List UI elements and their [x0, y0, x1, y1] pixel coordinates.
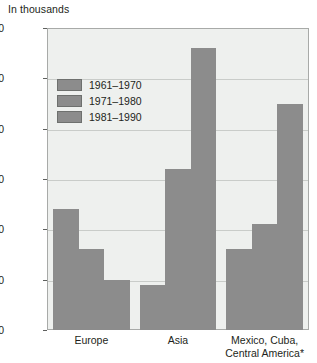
legend-item: 1961–1970	[57, 78, 142, 91]
legend-item: 1981–1990	[57, 110, 142, 123]
legend-label: 1961–1970	[89, 79, 142, 91]
legend-item: 1971–1980	[57, 94, 142, 107]
bar	[226, 249, 252, 330]
bar	[104, 280, 130, 330]
bar	[191, 48, 217, 330]
bar	[79, 249, 105, 330]
bar	[53, 209, 79, 330]
y-axis-tick-label: 1,500	[0, 173, 4, 185]
bar	[277, 104, 303, 331]
y-axis-tick-label: 500	[0, 274, 4, 286]
legend-swatch	[57, 111, 82, 123]
legend-label: 1971–1980	[89, 95, 142, 107]
bar	[140, 285, 166, 330]
bar-chart: In thousands 05001,0001,5002,0002,5003,0…	[0, 0, 317, 363]
y-axis-tick-label: 3,000	[0, 22, 4, 34]
bar	[252, 224, 278, 330]
legend-swatch	[57, 79, 82, 91]
y-axis-tick	[43, 330, 47, 331]
legend: 1961–19701971–19801981–1990	[57, 78, 142, 123]
legend-swatch	[57, 95, 82, 107]
y-axis-tick-label: 2,000	[0, 123, 4, 135]
bar	[165, 169, 191, 330]
bars-layer	[47, 28, 309, 330]
unit-caption: In thousands	[8, 3, 69, 15]
legend-label: 1981–1990	[89, 111, 142, 123]
y-axis-tick-label: 1,000	[0, 223, 4, 235]
y-axis-tick-label: 2,500	[0, 72, 4, 84]
y-axis-tick-label: 0	[0, 324, 4, 336]
x-axis-labels: EuropeAsiaMexico, Cuba, Central America*	[47, 334, 309, 362]
x-axis-category-label: Mexico, Cuba, Central America*	[205, 334, 317, 359]
